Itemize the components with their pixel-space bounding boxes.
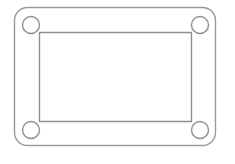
hole-bottom-right-shape xyxy=(192,122,209,139)
hole-top-left-shape xyxy=(23,17,40,34)
hole-top-right-shape xyxy=(192,17,209,34)
technical-drawing xyxy=(0,0,235,164)
hole-bottom-left-shape xyxy=(23,122,40,139)
inner-rectangle-shape xyxy=(40,33,192,122)
outer-rounded-rectangle-shape xyxy=(15,8,216,146)
drawing-canvas xyxy=(0,0,235,164)
